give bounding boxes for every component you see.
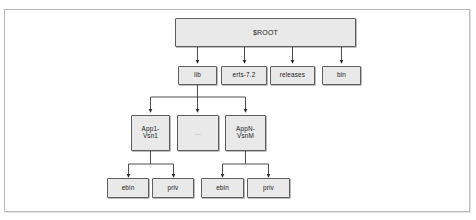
node-app-ellipsis[interactable]: ...	[177, 115, 219, 151]
node-appn-ebin-label: ebin	[216, 185, 229, 192]
node-bin[interactable]: bin	[322, 66, 361, 85]
tree-diagram: $ROOT lib erts-7.2 releases bin App1- Vs…	[0, 0, 476, 220]
node-appn-ebin[interactable]: ebin	[201, 178, 244, 198]
node-lib-label: lib	[194, 72, 201, 79]
node-app1-label: App1- Vsn1	[142, 126, 160, 139]
node-app1-priv-label: priv	[168, 185, 179, 192]
node-app1[interactable]: App1- Vsn1	[131, 115, 170, 151]
node-app1-ebin[interactable]: ebin	[107, 178, 149, 198]
node-appn-label: AppN- VsnM	[236, 126, 255, 139]
node-releases-label: releases	[280, 72, 305, 79]
node-erts[interactable]: erts-7.2	[221, 66, 267, 85]
node-root-label: $ROOT	[253, 29, 278, 36]
node-appn-priv-label: priv	[263, 185, 274, 192]
node-lib[interactable]: lib	[178, 66, 217, 85]
node-app-ellipsis-label: ...	[195, 130, 201, 137]
node-app1-ebin-label: ebin	[122, 185, 135, 192]
node-appn-priv[interactable]: priv	[247, 178, 290, 198]
node-appn[interactable]: AppN- VsnM	[225, 115, 266, 151]
node-app1-priv[interactable]: priv	[152, 178, 194, 198]
node-bin-label: bin	[337, 72, 346, 79]
node-root[interactable]: $ROOT	[175, 18, 356, 47]
node-releases[interactable]: releases	[270, 66, 315, 85]
node-erts-label: erts-7.2	[233, 72, 256, 79]
figure-canvas: $ROOT lib erts-7.2 releases bin App1- Vs…	[0, 0, 476, 220]
